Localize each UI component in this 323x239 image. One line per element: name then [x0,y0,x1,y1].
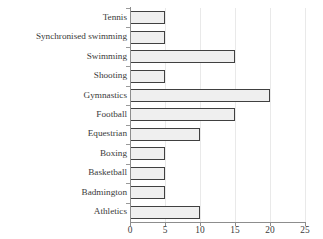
bar-swimming [130,50,235,63]
x-tick-label-15: 15 [230,226,239,235]
x-tick-label-20: 20 [265,226,274,235]
x-tick-label-25: 25 [300,226,309,235]
y-label-athletics: Athletics [94,207,127,216]
bar-badmington [130,186,165,199]
bar-row [130,125,305,144]
bar-row [130,66,305,85]
bar-gymnastics [130,89,270,102]
bar-row [130,27,305,46]
y-label-badmington: Badmington [82,188,127,197]
bar-row [130,203,305,222]
y-label-synchronised-swimming: Synchronised swimming [36,32,127,41]
bar-synchronised-swimming [130,31,165,44]
bar-row [130,164,305,183]
x-tick-label-0: 0 [128,226,133,235]
y-axis-spine [130,7,131,223]
y-label-football: Football [96,110,127,119]
bar-tennis [130,11,165,24]
plot-area [130,8,305,222]
bar-shooting [130,70,165,83]
y-label-basketball: Basketball [88,168,127,177]
gridline-25 [305,8,306,222]
y-label-shooting: Shooting [94,71,127,80]
bar-chart: TennisSynchronised swimmingSwimmingShoot… [0,0,323,239]
bar-row [130,86,305,105]
y-label-equestrian: Equestrian [88,129,127,138]
y-label-boxing: Boxing [100,149,127,158]
y-label-gymnastics: Gymnastics [84,91,127,100]
bar-athletics [130,206,200,219]
x-tick-label-5: 5 [163,226,168,235]
y-label-tennis: Tennis [103,13,127,22]
bar-basketball [130,167,165,180]
bar-row [130,47,305,66]
bar-equestrian [130,128,200,141]
bar-row [130,105,305,124]
x-axis-spine [130,222,306,223]
bar-football [130,108,235,121]
bar-boxing [130,147,165,160]
bar-row [130,144,305,163]
bar-row [130,183,305,202]
y-label-swimming: Swimming [87,52,127,61]
x-tick-label-10: 10 [195,226,204,235]
bar-row [130,8,305,27]
